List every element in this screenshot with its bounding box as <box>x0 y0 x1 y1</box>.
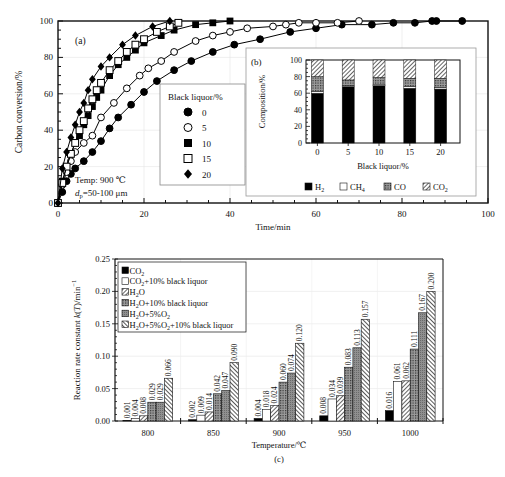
x-tick-label: 20 <box>436 147 445 157</box>
marker-filled-circle <box>287 29 294 36</box>
x-tick-label: 850 <box>207 428 220 438</box>
bar-h2o-10-black-liquor <box>279 382 287 421</box>
bar-h2o <box>140 416 148 421</box>
bar-h2o <box>271 405 279 421</box>
bar-value-label: 0.029 <box>156 383 165 400</box>
stacked-bar-15 <box>404 60 416 143</box>
marker-open-circle <box>111 100 118 107</box>
marker-filled-circle <box>412 19 419 26</box>
panel-label: (c) <box>274 454 284 464</box>
y-tick-label: 0.00 <box>95 416 110 426</box>
bar-segment-co2 <box>435 60 447 78</box>
annotation-particle-size: dp=50-100 μm <box>75 188 127 199</box>
bar-segment-h2 <box>435 89 447 143</box>
marker-filled-circle <box>459 18 466 25</box>
legend-item-label: 0 <box>202 108 207 118</box>
marker-open-circle <box>158 58 165 65</box>
marker-filled-circle <box>171 67 178 74</box>
marker-open-square <box>98 79 105 86</box>
bar-value-label: 0.120 <box>295 324 304 341</box>
bar-h2o-10-black-liquor <box>148 402 156 421</box>
marker-open-circle <box>145 65 152 72</box>
bar-co2-10-black-liquor <box>197 415 205 421</box>
bar-segment-co2 <box>373 60 385 77</box>
legend-title: Black liquor/% <box>168 92 223 102</box>
marker-filled-circle <box>89 149 96 156</box>
bar-segment-co <box>404 78 416 86</box>
panel-label: (a) <box>75 36 86 47</box>
bar-value-label: 0.083 <box>344 348 353 365</box>
bar-value-label: 0.047 <box>221 371 230 388</box>
bar-h2o-5-o2-10-black-liquor <box>427 291 435 421</box>
marker-open-square <box>123 49 130 56</box>
bar-h2o-5-o2 <box>156 402 164 421</box>
y-tick-label: 60 <box>294 89 302 98</box>
bar-group-950: 0.0080.0340.0390.0830.1130.157 <box>319 300 370 421</box>
bar-h2o-5-o2-10-black-liquor <box>296 343 304 421</box>
y-tick-label: 40 <box>44 125 54 135</box>
x-tick-label: 800 <box>141 428 154 438</box>
x-tick-label: 60 <box>312 209 322 219</box>
y-tick-label: 20 <box>294 122 302 131</box>
bar-value-label: 0.167 <box>418 294 427 311</box>
y-tick-label: 0 <box>49 198 54 208</box>
legend-swatch <box>340 183 347 190</box>
bar-h2o-5-o2 <box>353 348 361 421</box>
chart-b-composition-inset: (b)020406080100Composition/%05101520Blac… <box>246 48 476 196</box>
legend-item-label: 15 <box>202 154 212 164</box>
bar-h2o <box>336 396 344 421</box>
marker-filled-diamond <box>85 86 92 94</box>
bar-segment-h2 <box>404 88 416 143</box>
marker-open-circle <box>89 132 96 139</box>
bar-co2 <box>385 411 393 421</box>
bar-value-label: 0.008 <box>319 397 328 414</box>
bar-segment-co2 <box>342 60 354 80</box>
bar-segment-co <box>311 77 323 92</box>
bar-h2o-10-black-liquor <box>213 394 221 421</box>
x-tick-label: 0 <box>56 209 61 219</box>
x-tick-label: 0 <box>315 147 319 157</box>
marker-open-square <box>72 140 79 147</box>
marker-filled-circle <box>128 101 135 108</box>
marker-open-square <box>132 41 139 48</box>
marker-open-square <box>93 87 100 94</box>
marker-open-circle <box>244 25 251 32</box>
y-tick-label: 60 <box>44 89 54 99</box>
y-tick-label: 20 <box>44 162 54 172</box>
legend-item-label: CO <box>394 182 406 192</box>
bar-h2o-10-black-liquor <box>345 367 353 421</box>
legend-swatch <box>122 278 129 285</box>
y-axis-label: Reaction rate constant k(T)/min−1 <box>70 280 82 401</box>
marker-filled-circle <box>106 125 113 132</box>
legend-swatch <box>122 321 129 328</box>
y-tick-label: 40 <box>294 106 302 115</box>
x-tick-label: 5 <box>346 147 350 157</box>
marker-open-circle <box>270 23 277 30</box>
marker-filled-circle <box>231 41 238 48</box>
legend-swatch <box>122 310 129 317</box>
bar-co2-10-black-liquor <box>131 418 139 421</box>
y-tick-label: 80 <box>44 52 54 62</box>
bar-co2-10-black-liquor <box>262 409 270 421</box>
legend-swatch <box>384 183 391 190</box>
marker-open-square <box>76 127 83 134</box>
marker-open-circle <box>136 72 143 79</box>
figure: 020406080100020406080100Time/minCarbon c… <box>0 0 505 477</box>
y-tick-label: 0.20 <box>95 286 110 296</box>
x-tick-label: 950 <box>338 428 351 438</box>
bar-value-label: 0.014 <box>205 393 214 410</box>
bar-value-label: 0.039 <box>336 377 345 394</box>
marker-open-circle <box>356 18 363 25</box>
marker-open-circle <box>227 29 234 36</box>
bar-segment-co2 <box>404 60 416 78</box>
legend-item-label: CO2+10% black liquor <box>130 276 208 287</box>
y-tick-label: 0.10 <box>95 351 110 361</box>
stacked-bar-5 <box>342 60 354 143</box>
bar-value-label: 0.200 <box>427 272 436 289</box>
x-tick-label: 80 <box>398 209 408 219</box>
legend-black-liquor: Black liquor/%05101520 <box>160 84 245 185</box>
bar-co2-10-black-liquor <box>328 399 336 421</box>
chart-c-reaction-rate: 0.000.050.100.150.200.25Reaction rate co… <box>70 254 443 464</box>
marker-filled-square <box>209 19 216 26</box>
bar-segment-co2 <box>311 60 323 77</box>
